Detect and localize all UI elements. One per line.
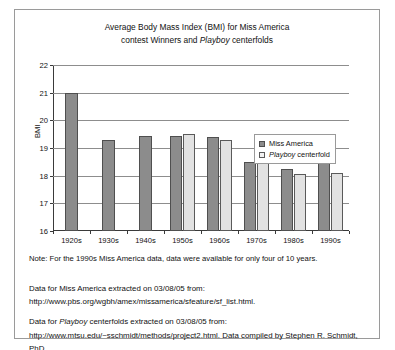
chart-title-line-2: contest Winners and Playboy centerfolds [15, 34, 379, 47]
bar [294, 174, 307, 231]
x-axis-category-label: 1990s [320, 236, 341, 245]
x-axis-category-label: 1950s [172, 236, 193, 245]
y-axis-tick-mark [50, 176, 53, 177]
legend-label-italic: Playboy [269, 150, 295, 159]
y-axis-tick-mark [50, 120, 53, 121]
y-axis-tick-mark [50, 65, 53, 66]
y-axis-tick-mark [50, 203, 53, 204]
x-axis-tick-mark [127, 231, 128, 234]
bar [257, 156, 270, 231]
y-axis-tick-label: 22 [40, 61, 48, 70]
gridline [53, 65, 349, 66]
x-axis-category-label: 1970s [246, 236, 267, 245]
y-axis-tick-label: 19 [40, 144, 48, 153]
chart-sources: Data for Miss America extracted on 03/08… [29, 282, 377, 350]
x-axis-category-label: 1920s [61, 236, 82, 245]
chart-title-line-1: Average Body Mass Index (BMI) for Miss A… [15, 21, 379, 34]
source-miss-america: Data for Miss America extracted on 03/08… [29, 282, 377, 308]
chart-title-line-2-post: centerfolds [230, 35, 273, 45]
y-axis-tick-label: 16 [40, 227, 48, 236]
y-axis-title: BMI [33, 124, 42, 138]
y-axis-tick-mark [50, 148, 53, 149]
y-axis-tick-mark [50, 93, 53, 94]
x-axis-tick-mark [90, 231, 91, 234]
legend-label: Playboy centerfold [269, 150, 330, 159]
bar [170, 136, 183, 231]
bar [220, 140, 233, 231]
chart-title: Average Body Mass Index (BMI) for Miss A… [15, 21, 379, 46]
chart-note: Note: For the 1990s Miss America data, d… [29, 253, 373, 264]
bar [207, 137, 220, 231]
bar [65, 93, 78, 231]
gridline [53, 120, 349, 121]
legend-item: Miss America [259, 138, 330, 149]
x-axis-tick-mark [275, 231, 276, 234]
x-axis-tick-mark [312, 231, 313, 234]
bar [102, 140, 115, 231]
x-axis-tick-mark [238, 231, 239, 234]
legend-label: Miss America [269, 139, 313, 148]
legend-item: Playboy centerfold [259, 149, 330, 160]
x-axis-tick-mark [201, 231, 202, 234]
bar [244, 162, 257, 231]
y-axis-tick-label: 17 [40, 199, 48, 208]
x-axis-category-label: 1940s [135, 236, 156, 245]
x-axis-tick-mark [53, 231, 54, 234]
y-axis-tick-label: 18 [40, 171, 48, 180]
chart-title-line-2-pre: contest Winners and [121, 35, 200, 45]
x-axis-category-label: 1960s [209, 236, 230, 245]
bar [139, 136, 152, 231]
chart-title-playboy-italic: Playboy [200, 35, 230, 45]
bar [281, 169, 294, 231]
source-playboy: Data for Playboy centerfolds extracted o… [29, 315, 377, 350]
chart-legend: Miss AmericaPlayboy centerfold [254, 134, 336, 164]
x-axis-tick-mark [164, 231, 165, 234]
figure-panel: Average Body Mass Index (BMI) for Miss A… [14, 9, 380, 339]
bar [331, 173, 344, 231]
source-playboy-pre: Data for [29, 317, 59, 326]
x-axis-category-label: 1930s [98, 236, 119, 245]
legend-swatch [259, 141, 265, 147]
source-playboy-italic: Playboy [59, 317, 87, 326]
y-axis-tick-label: 20 [40, 116, 48, 125]
x-axis-tick-mark [349, 231, 350, 234]
x-axis-category-label: 1980s [283, 236, 304, 245]
bar [183, 134, 196, 231]
gridline [53, 93, 349, 94]
legend-swatch [259, 152, 265, 158]
y-axis-tick-label: 21 [40, 88, 48, 97]
